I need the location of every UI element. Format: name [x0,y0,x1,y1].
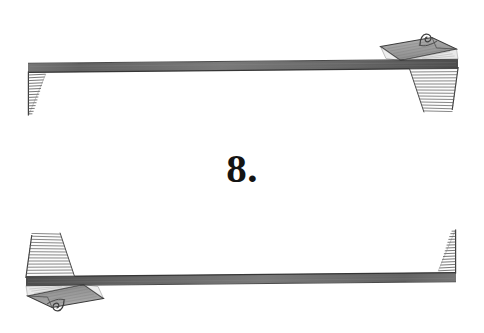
page-canvas: 8. [0,0,484,333]
banner-rule-top [28,34,458,115]
chapter-number: 8. [0,148,484,189]
banner-rule-bottom [26,230,456,311]
